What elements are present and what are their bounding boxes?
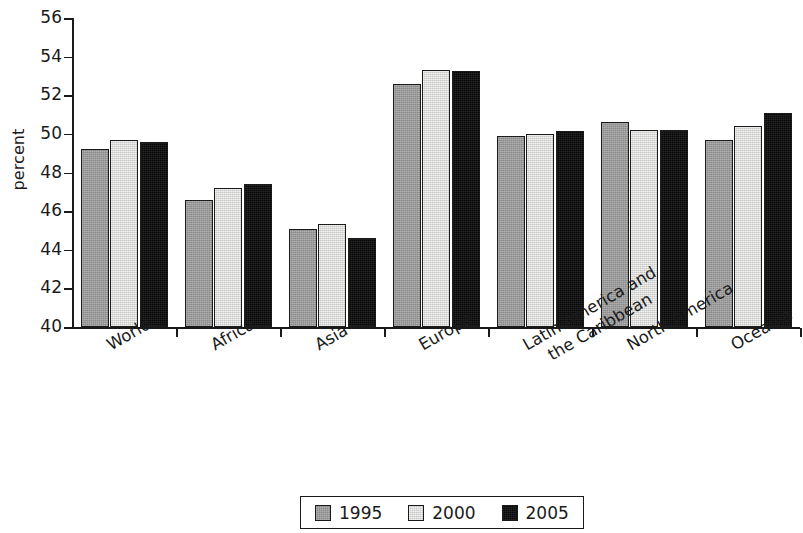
bar-2000-world: [110, 140, 138, 327]
y-axis-tick: [64, 173, 72, 175]
y-axis-tick-label: 44: [18, 239, 62, 259]
plot-area: [72, 18, 800, 327]
y-axis-tick: [64, 134, 72, 136]
bar-2005-world: [140, 142, 168, 327]
y-axis-tick-labels: 565452504846444240: [0, 18, 62, 327]
bar-2005-oceania: [764, 113, 792, 327]
legend-swatch-1995: [315, 505, 331, 521]
bar-2000-africa: [214, 188, 242, 327]
bar-1995-europe: [393, 84, 421, 327]
legend-item-1995[interactable]: 1995: [315, 503, 382, 523]
y-axis-tick-label: 52: [18, 84, 62, 104]
legend-label: 2000: [432, 503, 475, 523]
y-axis-line: [72, 18, 74, 327]
bar-1995-asia: [289, 229, 317, 327]
legend-swatch-2000: [408, 505, 424, 521]
bar-2005-latin-america-and-the-caribbean: [556, 131, 584, 327]
y-axis-tick: [64, 57, 72, 59]
bar-1995-africa: [185, 200, 213, 327]
y-axis-tick: [64, 211, 72, 213]
bar-2000-asia: [318, 224, 346, 327]
y-axis-tick-label: 40: [18, 316, 62, 336]
legend-item-2005[interactable]: 2005: [502, 503, 569, 523]
chart-legend: 199520002005: [300, 496, 584, 529]
y-axis-tick-label: 46: [18, 200, 62, 220]
bar-2000-europe: [422, 70, 450, 327]
bar-1995-latin-america-and-the-caribbean: [497, 136, 525, 327]
y-axis-tick: [64, 288, 72, 290]
bar-2005-europe: [452, 71, 480, 327]
y-axis-tick: [64, 327, 72, 329]
x-axis-category-labels: WorldAfricaAsiaEuropeLatin America andth…: [72, 327, 800, 477]
y-axis-tick: [64, 250, 72, 252]
legend-swatch-2005: [502, 505, 518, 521]
y-axis-tick-label: 50: [18, 123, 62, 143]
legend-item-2000[interactable]: 2000: [408, 503, 475, 523]
bar-2000-oceania: [734, 126, 762, 327]
bar-1995-world: [81, 149, 109, 327]
y-axis-tick-label: 56: [18, 7, 62, 27]
y-axis-tick-label: 54: [18, 46, 62, 66]
y-axis-tick: [64, 95, 72, 97]
y-axis-tick: [64, 18, 72, 20]
bar-2005-africa: [244, 184, 272, 327]
legend-label: 1995: [339, 503, 382, 523]
legend-label: 2005: [526, 503, 569, 523]
bar-chart: percent 565452504846444240 WorldAfricaAs…: [0, 0, 803, 533]
y-axis-tick-label: 48: [18, 162, 62, 182]
x-axis-separator-tick: [800, 328, 802, 337]
y-axis-tick-label: 42: [18, 277, 62, 297]
bar-2005-asia: [348, 238, 376, 327]
bar-2000-latin-america-and-the-caribbean: [526, 134, 554, 327]
